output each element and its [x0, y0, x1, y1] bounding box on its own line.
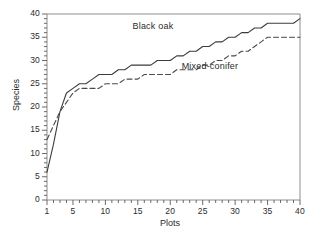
chart-canvas — [0, 0, 321, 237]
species-accumulation-chart: Species Plots Black oak Mixed-conifer 15… — [0, 0, 321, 237]
y-tick-label: 0 — [19, 194, 40, 204]
x-tick-label: 1 — [38, 206, 56, 216]
y-axis-ticks — [42, 14, 47, 200]
y-tick-label: 25 — [19, 78, 40, 88]
y-tick-label: 10 — [19, 148, 40, 158]
x-tick-label: 20 — [161, 206, 179, 216]
x-axis-ticks — [47, 200, 300, 205]
y-tick-label: 30 — [19, 55, 40, 65]
series-label-black-oak: Black oak — [133, 21, 174, 31]
data-series-lines — [47, 19, 300, 172]
x-tick-label: 30 — [226, 206, 244, 216]
x-tick-label: 10 — [96, 206, 114, 216]
x-tick-label: 15 — [129, 206, 147, 216]
x-tick-label: 35 — [259, 206, 277, 216]
y-tick-label: 15 — [19, 124, 40, 134]
y-axis-label: Species — [11, 65, 21, 125]
y-tick-label: 40 — [19, 8, 40, 18]
x-tick-label: 40 — [291, 206, 309, 216]
y-tick-label: 35 — [19, 31, 40, 41]
plot-frame — [47, 14, 300, 200]
x-tick-label: 25 — [194, 206, 212, 216]
y-tick-label: 5 — [19, 171, 40, 181]
x-tick-label: 5 — [64, 206, 82, 216]
y-tick-label: 20 — [19, 101, 40, 111]
x-axis-label: Plots — [160, 218, 180, 228]
series-label-mixed-conifer: Mixed-conifer — [182, 61, 239, 71]
